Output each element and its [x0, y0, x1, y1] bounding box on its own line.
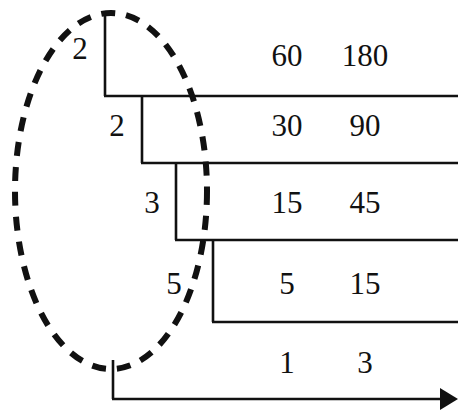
divisor-label-2: 2 — [105, 110, 129, 141]
quotient-right-1: 180 — [337, 40, 393, 71]
divisor-label-3: 3 — [140, 187, 164, 218]
quotient-right-4: 15 — [337, 268, 393, 299]
axis-arrowhead-icon — [440, 388, 458, 410]
divisor-label-1: 2 — [68, 33, 92, 64]
ladder-step-4 — [212, 240, 458, 322]
quotient-left-5: 1 — [259, 347, 315, 378]
quotient-left-2: 30 — [259, 110, 315, 141]
quotient-right-5: 3 — [337, 347, 393, 378]
quotient-left-1: 60 — [259, 40, 315, 71]
quotient-left-4: 5 — [259, 268, 315, 299]
quotient-right-2: 90 — [337, 110, 393, 141]
quotient-right-3: 45 — [337, 187, 393, 218]
divisor-label-4: 5 — [162, 268, 186, 299]
ladder-division-diagram: 2 2 3 5 60 30 15 5 1 180 90 45 15 3 — [0, 0, 458, 419]
ladder-step-3 — [175, 163, 458, 240]
quotient-left-3: 15 — [259, 187, 315, 218]
dashed-highlight-ellipse — [15, 13, 207, 369]
